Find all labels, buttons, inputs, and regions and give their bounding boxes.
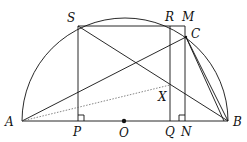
label-S: S (67, 11, 75, 25)
label-P: P (72, 125, 82, 139)
label-N: N (180, 125, 192, 139)
label-O: O (119, 126, 129, 140)
label-A: A (4, 115, 14, 129)
right-angle-P (78, 115, 84, 121)
segment-CB (186, 37, 228, 121)
center-point-O (122, 119, 126, 123)
dotted-segment-AX (22, 85, 170, 121)
label-M: M (181, 10, 195, 24)
label-X: X (157, 90, 167, 104)
segment-C-near-B (186, 37, 224, 121)
label-R: R (164, 10, 174, 24)
right-angle-N (179, 115, 185, 121)
geometry-diagram: A B O S R M C X P Q N (0, 0, 247, 142)
segment-SB (78, 26, 228, 121)
label-Q: Q (165, 125, 175, 139)
point-C (185, 36, 187, 38)
label-B: B (232, 115, 242, 129)
label-C: C (191, 27, 200, 41)
